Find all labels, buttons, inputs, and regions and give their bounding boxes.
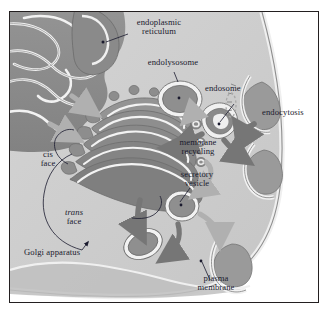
endolysosome-label-anchor (178, 97, 181, 100)
plasma-membrane-label-anchor (200, 260, 203, 263)
figure-frame: endoplasmic reticulum endolysosome endos… (9, 11, 319, 303)
secretory-vesicle-organelle (165, 191, 199, 221)
er-label-anchor (102, 41, 105, 44)
endosome-label-anchor (218, 123, 221, 126)
cell-diagram-svg (10, 12, 317, 301)
figure-root: endoplasmic reticulum endolysosome endos… (0, 0, 328, 325)
cell-body (10, 12, 317, 301)
secretory-vesicle-label-anchor (180, 204, 183, 207)
